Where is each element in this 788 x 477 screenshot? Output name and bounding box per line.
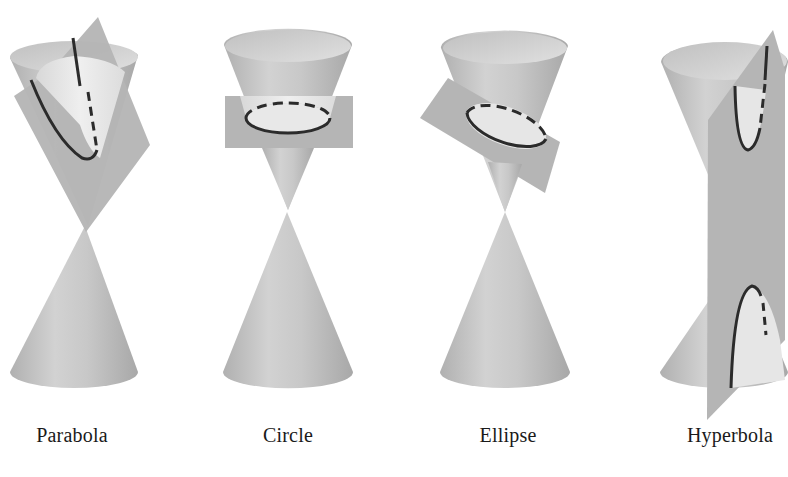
parabola-figure <box>10 17 150 388</box>
conic-sections-figure: Parabola Circle Ellipse Hyperbola <box>0 0 788 477</box>
label-hyperbola: Hyperbola <box>687 424 773 447</box>
cone-rim <box>225 30 351 62</box>
hyperbola-figure <box>660 30 788 420</box>
conic-illustrations <box>0 0 788 477</box>
label-ellipse: Ellipse <box>480 424 537 447</box>
label-circle: Circle <box>263 424 313 447</box>
lower-cone <box>223 212 353 388</box>
ellipse-figure <box>420 31 570 388</box>
lower-cone <box>10 226 138 388</box>
cone-rim <box>443 32 567 64</box>
label-parabola: Parabola <box>36 424 108 447</box>
cone-neck <box>488 162 522 212</box>
hyperbola-upper-solid <box>765 46 767 80</box>
lower-cone <box>440 212 570 388</box>
cone-neck <box>262 148 314 210</box>
circle-figure <box>223 29 353 389</box>
